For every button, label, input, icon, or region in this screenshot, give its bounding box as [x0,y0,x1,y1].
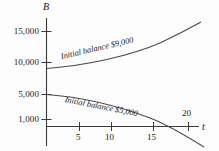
x-axis-label: t [202,121,205,132]
plot-area [0,0,219,151]
x-tick-label-10: 10 [105,132,114,142]
balance-growth-decay-figure: B t 15,000 10,000 5,000 1,000 5 10 15 20… [0,0,219,151]
y-tick-label-1000: 1,000 [0,114,39,124]
x-tick-label-5: 5 [76,132,81,142]
x-tick-label-15: 15 [147,132,156,142]
y-tick-label-5000: 5,000 [0,89,39,99]
y-tick-label-10000: 10,000 [0,57,39,67]
y-axis-label: B [43,1,49,12]
x-tick-label-20: 20 [182,108,191,118]
y-tick-label-15000: 15,000 [0,26,39,36]
